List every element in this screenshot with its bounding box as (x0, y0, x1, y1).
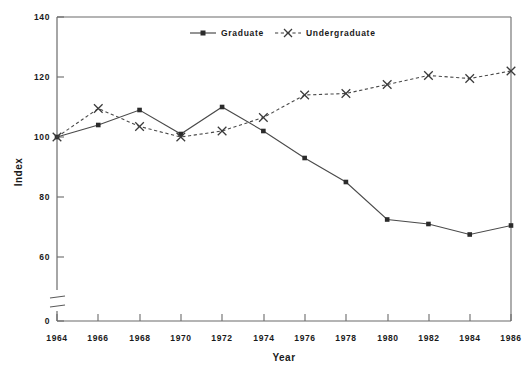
y-axis-ticks (57, 17, 64, 321)
series-line-undergraduate (57, 71, 511, 137)
data-point-marker (426, 222, 431, 227)
x-tick-label-1982: 1982 (418, 333, 439, 343)
series-undergraduate (53, 67, 516, 142)
chart-screenshot: 140 120 100 80 60 0 Index 1964 1 (0, 0, 529, 368)
data-series-layer (53, 67, 516, 237)
x-marker-icon (284, 29, 292, 37)
legend-label-undergraduate: Undergraduate (306, 28, 376, 38)
x-tick-label-1984: 1984 (459, 333, 480, 343)
chart-legend: Graduate Undergraduate (190, 28, 376, 38)
y-tick-label-0: 0 (45, 316, 50, 326)
data-point-marker (424, 71, 433, 80)
x-tick-label-1976: 1976 (294, 333, 315, 343)
y-axis-tick-labels: 140 120 100 80 60 0 (34, 12, 50, 326)
square-marker-icon (201, 31, 206, 36)
data-point-marker (385, 217, 390, 222)
data-point-marker (467, 232, 472, 237)
x-axis-tick-labels: 1964 1966 1968 1970 1972 1974 1976 1978 … (46, 333, 521, 343)
data-point-marker (383, 80, 392, 89)
data-point-marker (261, 129, 266, 134)
break-mark-upper (50, 296, 65, 298)
x-tick-label-1968: 1968 (129, 333, 150, 343)
y-axis-break-marks (50, 296, 65, 307)
x-axis-ticks (57, 314, 511, 321)
data-point-marker (465, 74, 474, 83)
y-tick-label-120: 120 (34, 72, 50, 82)
data-point-marker (509, 223, 514, 228)
series-graduate (55, 105, 514, 237)
y-axis-title: Index (13, 158, 24, 187)
break-mark-lower (50, 305, 65, 307)
legend-entry-graduate: Graduate (190, 28, 264, 38)
x-tick-label-1986: 1986 (500, 333, 521, 343)
x-tick-label-1970: 1970 (170, 333, 191, 343)
x-tick-label-1964: 1964 (46, 333, 67, 343)
data-point-marker (135, 122, 144, 131)
legend-label-graduate: Graduate (221, 28, 264, 38)
x-tick-label-1974: 1974 (253, 333, 274, 343)
data-point-marker (344, 180, 349, 185)
x-axis-title: Year (272, 352, 295, 363)
data-point-marker (94, 104, 103, 113)
series-line-graduate (57, 107, 511, 235)
data-point-marker (259, 113, 268, 122)
data-point-marker (302, 156, 307, 161)
data-point-marker (220, 105, 225, 110)
x-tick-label-1978: 1978 (335, 333, 356, 343)
legend-entry-undergraduate: Undergraduate (275, 28, 376, 38)
x-tick-label-1966: 1966 (87, 333, 108, 343)
y-tick-label-140: 140 (34, 12, 50, 22)
plot-frame (57, 17, 511, 321)
y-tick-label-80: 80 (39, 192, 50, 202)
data-point-marker (96, 123, 101, 128)
line-chart: 140 120 100 80 60 0 Index 1964 1 (0, 0, 529, 368)
x-tick-label-1972: 1972 (211, 333, 232, 343)
y-tick-label-100: 100 (34, 132, 50, 142)
x-tick-label-1980: 1980 (377, 333, 398, 343)
y-tick-label-60: 60 (39, 252, 50, 262)
data-point-marker (137, 108, 142, 113)
